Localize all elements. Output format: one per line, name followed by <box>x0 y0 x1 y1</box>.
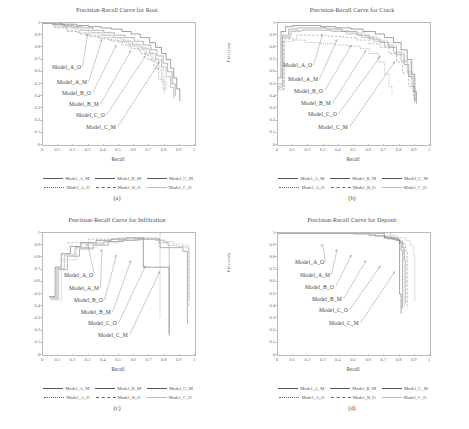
panel-b-ylabel: Precision <box>226 43 231 62</box>
panel-b-ytick-3: 0.3 <box>261 105 275 110</box>
legend-item-model_c_m[interactable]: Model_C_M <box>147 386 193 391</box>
legend-label-model_a_o: Model_A_O <box>66 185 89 190</box>
panel-c-xtick-mark-8 <box>164 354 165 356</box>
legend-swatch-model_b_o <box>331 397 351 398</box>
panel-a-annot-1: Model_A_M <box>57 79 87 85</box>
panel-a-annot-2: Model_B_O <box>62 90 91 96</box>
legend-swatch-model_a_o <box>279 397 299 398</box>
panel-a-xtick-mark-2 <box>72 144 73 146</box>
panel-d-plot-area <box>277 232 431 356</box>
panel-c-legend-row-0: Model_A_MModel_B_MModel_C_M <box>20 386 216 391</box>
panel-c-xtick-mark-0 <box>42 354 43 356</box>
panel-b-ytick-mark-9 <box>275 34 277 35</box>
panel-d-xtick-8: 0.8 <box>392 357 406 362</box>
legend-item-model_c_m[interactable]: Model_C_M <box>382 386 428 391</box>
panel-a-ytick-9: 0.9 <box>26 32 40 37</box>
legend-item-model_b_m[interactable]: Model_B_M <box>95 386 141 391</box>
panel-c-xtick-mark-5 <box>118 354 119 356</box>
panel-b-xtick-mark-6 <box>368 144 369 146</box>
panel-c-xtick-2: 0.2 <box>65 357 79 362</box>
legend-item-model_b_m[interactable]: Model_B_M <box>330 386 376 391</box>
legend-item-model_a_m[interactable]: Model_A_M <box>43 176 89 181</box>
panel-c-ytick-4: 0.4 <box>26 303 40 308</box>
curve-model_c_m <box>49 239 169 333</box>
legend-item-model_b_o[interactable]: Model_B_O <box>96 185 141 190</box>
panel-b-ytick-5: 0.5 <box>261 81 275 86</box>
panel-a-ytick-mark-6 <box>40 71 42 72</box>
legend-item-model_a_o[interactable]: Model_A_O <box>44 185 89 190</box>
panel-c-xtick-9: 0.9 <box>172 357 186 362</box>
panel-c-xtick-mark-9 <box>179 354 180 356</box>
legend-item-model_c_o[interactable]: Model_C_O <box>147 395 192 400</box>
panel-b-caption: (b) <box>235 194 469 201</box>
panel-b-legend: Model_A_MModel_B_MModel_C_MModel_A_OMode… <box>255 176 451 190</box>
legend-label-model_c_o: Model_C_O <box>404 395 427 400</box>
legend-item-model_c_o[interactable]: Model_C_O <box>382 185 427 190</box>
legend-label-model_c_m: Model_C_M <box>169 386 193 391</box>
panel-a-ytick-mark-10 <box>40 22 42 23</box>
panel-a-ytick-4: 0.4 <box>26 93 40 98</box>
panel-d-xtick-2: 0.2 <box>300 357 314 362</box>
panel-a-annot-5: Model_C_M <box>86 124 116 130</box>
legend-item-model_a_m[interactable]: Model_A_M <box>43 386 89 391</box>
panel-a-annot-0: Model_A_O <box>52 64 81 70</box>
legend-label-model_a_o: Model_A_O <box>301 395 324 400</box>
legend-item-model_b_o[interactable]: Model_B_O <box>331 185 376 190</box>
panel-b-xtick-mark-9 <box>414 144 415 146</box>
panel-a-xtick-mark-6 <box>133 144 134 146</box>
panel-c-xtick-mark-4 <box>103 354 104 356</box>
legend-swatch-model_a_m <box>278 388 298 389</box>
panel-b-legend-row-1: Model_A_OModel_B_OModel_C_O <box>255 185 451 190</box>
panel-c-ytick-mark-7 <box>40 269 42 270</box>
legend-item-model_c_o[interactable]: Model_C_O <box>147 185 192 190</box>
legend-item-model_a_o[interactable]: Model_A_O <box>44 395 89 400</box>
panel-a-legend-row-1: Model_A_OModel_B_OModel_C_O <box>20 185 216 190</box>
panel-c-ytick-9: 0.9 <box>26 242 40 247</box>
panel-c-xtick-mark-7 <box>148 354 149 356</box>
legend-item-model_a_m[interactable]: Model_A_M <box>278 176 324 181</box>
panel-b-ytick-9: 0.9 <box>261 32 275 37</box>
legend-item-model_b_m[interactable]: Model_B_M <box>95 176 141 181</box>
panel-a-xtick-mark-9 <box>179 144 180 146</box>
panel-b-ytick-mark-8 <box>275 46 277 47</box>
legend-item-model_b_o[interactable]: Model_B_O <box>96 395 141 400</box>
panel-c-xtick-6: 0.6 <box>126 357 140 362</box>
panel-d-ytick-4: 0.4 <box>261 303 275 308</box>
panel-b-ytick-mark-10 <box>275 22 277 23</box>
panel-a-ytick-mark-8 <box>40 46 42 47</box>
legend-item-model_b_o[interactable]: Model_B_O <box>331 395 376 400</box>
panel-c-ytick-mark-3 <box>40 317 42 318</box>
panel-c-annot-1: Model_A_M <box>69 285 99 291</box>
legend-item-model_c_m[interactable]: Model_C_M <box>382 176 428 181</box>
panel-b-xtick-3: 0.3 <box>316 147 330 152</box>
panel-d-ytick-10: 1 <box>261 230 275 235</box>
panel-b-ytick-mark-2 <box>275 120 277 121</box>
legend-item-model_a_m[interactable]: Model_A_M <box>278 386 324 391</box>
legend-item-model_b_m[interactable]: Model_B_M <box>330 176 376 181</box>
legend-swatch-model_c_m <box>382 178 402 179</box>
panel-d-xtick-10: 1 <box>422 357 436 362</box>
panel-a-ytick-8: 0.8 <box>26 44 40 49</box>
legend-swatch-model_c_m <box>147 388 167 389</box>
panel-d-xtick-mark-3 <box>323 354 324 356</box>
legend-swatch-model_b_m <box>330 388 350 389</box>
panel-d-xtick-9: 0.9 <box>407 357 421 362</box>
panel-b-xtick-10: 1 <box>422 147 436 152</box>
legend-label-model_b_o: Model_B_O <box>353 185 376 190</box>
panel-d-xtick-mark-1 <box>292 354 293 356</box>
panel-b-xtick-2: 0.2 <box>300 147 314 152</box>
panel-c-ytick-mark-10 <box>40 232 42 233</box>
panel-b-xtick-0: 0 <box>270 147 284 152</box>
panel-a-ytick-5: 0.5 <box>26 81 40 86</box>
panel-b-xtick-mark-4 <box>338 144 339 146</box>
legend-item-model_a_o[interactable]: Model_A_O <box>279 395 324 400</box>
legend-label-model_c_o: Model_C_O <box>169 395 192 400</box>
legend-item-model_a_o[interactable]: Model_A_O <box>279 185 324 190</box>
panel-d-ytick-1: 0.1 <box>261 339 275 344</box>
panel-a-ytick-mark-7 <box>40 59 42 60</box>
panel-d-ytick-3: 0.3 <box>261 315 275 320</box>
panel-a-ytick-6: 0.6 <box>26 68 40 73</box>
legend-item-model_c_m[interactable]: Model_C_M <box>147 176 193 181</box>
legend-item-model_c_o[interactable]: Model_C_O <box>382 395 427 400</box>
curve-model_c_o <box>366 233 415 301</box>
